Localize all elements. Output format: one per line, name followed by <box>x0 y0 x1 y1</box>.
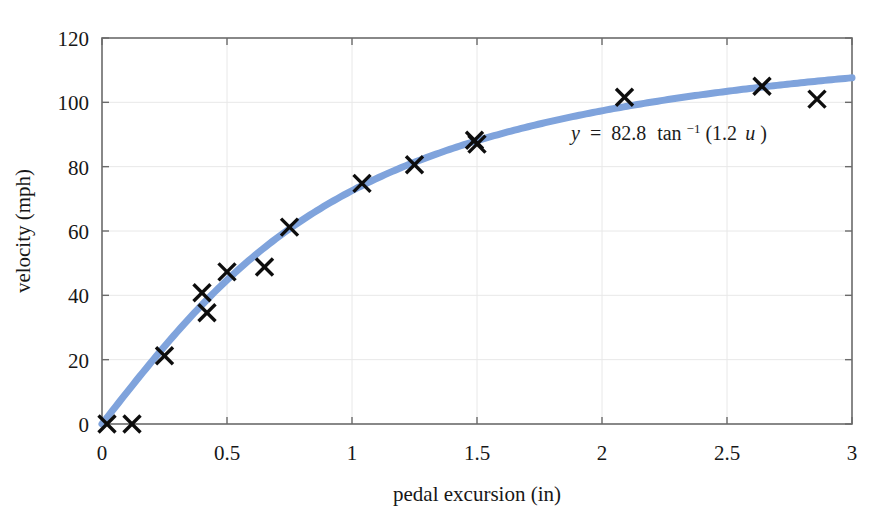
y-tick-label: 120 <box>58 27 90 51</box>
x-tick-label: 0.5 <box>214 441 240 465</box>
equation-lhs: y <box>569 122 580 145</box>
y-tick-label: 60 <box>68 220 89 244</box>
y-tick-label: 20 <box>68 349 89 373</box>
equation-argument: (1.2 <box>705 122 737 145</box>
x-tick-label: 0 <box>97 441 108 465</box>
x-tick-label: 2.5 <box>714 441 740 465</box>
x-tick-label: 3 <box>847 441 858 465</box>
y-tick-label: 40 <box>68 284 89 308</box>
equation-amplitude: 82.8 <box>611 122 646 144</box>
y-tick-label: 100 <box>58 91 90 115</box>
figure-background <box>0 0 878 518</box>
equation-equals: = <box>590 122 601 144</box>
chart-canvas: 00.511.522.53 020406080100120 pedal excu… <box>0 0 878 518</box>
chart-figure: 00.511.522.53 020406080100120 pedal excu… <box>0 0 878 518</box>
equation-variable: u <box>745 122 755 144</box>
x-axis-title: pedal excursion (in) <box>393 482 561 506</box>
x-tick-label: 1 <box>347 441 358 465</box>
x-tick-label: 1.5 <box>464 441 490 465</box>
y-axis-title: velocity (mph) <box>11 169 35 293</box>
y-tick-label: 80 <box>68 156 89 180</box>
y-tick-label: 0 <box>79 413 90 437</box>
equation-exponent: −1 <box>687 121 701 136</box>
equation-close-paren: ) <box>760 122 767 145</box>
x-tick-label: 2 <box>597 441 608 465</box>
equation-function: tan <box>657 122 681 144</box>
